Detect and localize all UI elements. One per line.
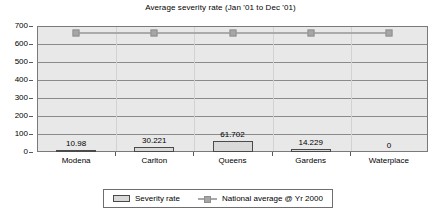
- bar-value-label: 10.98: [37, 139, 115, 148]
- bar[interactable]: [291, 149, 331, 152]
- bar-value-label: 61.702: [193, 130, 271, 139]
- x-tick-mark: [115, 152, 116, 156]
- x-tick-label: Carlton: [141, 156, 167, 166]
- bar[interactable]: [213, 141, 253, 152]
- y-tick-label: 200: [15, 112, 28, 120]
- y-tick-mark: [29, 80, 33, 81]
- chart-legend: Severity rate National average @ Yr 2000: [103, 189, 333, 208]
- bar-value-label: 14.229: [272, 138, 350, 147]
- legend-item-label: Severity rate: [135, 194, 180, 203]
- y-tick-label: 600: [15, 40, 28, 48]
- y-tick-label: 700: [15, 22, 28, 30]
- y-axis: 0100200300400500600700: [0, 26, 33, 152]
- national-average-marker[interactable]: [151, 30, 158, 37]
- bar-value-label: 0: [350, 141, 428, 150]
- y-tick-mark: [29, 62, 33, 63]
- chart-container: Average severity rate (Jan '01 to Dec '0…: [0, 0, 441, 216]
- y-tick-mark: [29, 134, 33, 135]
- x-tick-label: Waterplace: [369, 156, 409, 166]
- x-tick-mark: [272, 152, 273, 156]
- y-tick-mark: [29, 26, 33, 27]
- legend-line-swatch-icon: [198, 195, 217, 203]
- y-tick-mark: [29, 152, 33, 153]
- x-tick-mark: [350, 152, 351, 156]
- national-average-marker[interactable]: [307, 30, 314, 37]
- bar[interactable]: [56, 150, 96, 152]
- national-average-marker[interactable]: [229, 30, 236, 37]
- legend-item-severity-rate[interactable]: Severity rate: [113, 194, 180, 203]
- chart-title: Average severity rate (Jan '01 to Dec '0…: [0, 3, 441, 13]
- bar-value-label: 30.221: [115, 136, 193, 145]
- legend-bar-swatch-icon: [113, 195, 130, 202]
- y-tick-label: 300: [15, 94, 28, 102]
- y-tick-label: 100: [15, 130, 28, 138]
- x-axis: ModenaCarltonQueensGardensWaterplace: [37, 156, 428, 170]
- y-tick-mark: [29, 44, 33, 45]
- y-tick-label: 0: [24, 148, 28, 156]
- legend-item-national-average[interactable]: National average @ Yr 2000: [198, 194, 323, 203]
- bars-layer: 10.9830.22161.70214.2290: [37, 26, 428, 152]
- legend-item-label: National average @ Yr 2000: [222, 194, 323, 203]
- x-tick-label: Modena: [62, 156, 91, 166]
- x-tick-label: Gardens: [295, 156, 326, 166]
- y-tick-label: 500: [15, 58, 28, 66]
- x-tick-mark: [193, 152, 194, 156]
- national-average-marker[interactable]: [385, 30, 392, 37]
- bar[interactable]: [134, 147, 174, 152]
- x-tick-label: Queens: [218, 156, 246, 166]
- national-average-marker[interactable]: [73, 30, 80, 37]
- y-tick-mark: [29, 116, 33, 117]
- y-tick-mark: [29, 98, 33, 99]
- y-tick-label: 400: [15, 76, 28, 84]
